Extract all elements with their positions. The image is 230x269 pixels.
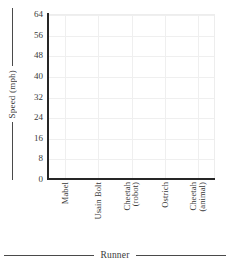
x-axis-category-label-line: Mabel xyxy=(60,182,69,204)
x-axis-title-rule-right xyxy=(136,255,226,256)
y-axis-title-rule-bottom xyxy=(12,122,13,180)
x-axis-category-label-line: Ostrich xyxy=(160,182,169,208)
x-axis-category-label-inner: Cheetah(animal) xyxy=(189,182,207,242)
y-axis-tick-labels: 0816243240485664 xyxy=(22,0,46,269)
x-axis-category-label-inner: Cheetah(robot) xyxy=(123,182,141,242)
y-axis-tick-label: 24 xyxy=(34,113,43,122)
x-axis-category-label-inner: Ostrich xyxy=(160,182,169,242)
gridline-vertical xyxy=(165,15,166,179)
x-axis-category-label-line: (animal) xyxy=(198,182,207,212)
y-axis-tick-label: 8 xyxy=(39,154,44,163)
x-axis-category-labels: MabelUsain BoltCheetah(robot)OstrichChee… xyxy=(48,182,215,244)
y-axis-tick-label: 0 xyxy=(39,175,44,184)
gridline-vertical xyxy=(65,15,66,179)
x-axis-title: Runner xyxy=(100,250,129,260)
y-axis-title: Speed (mph) xyxy=(7,66,17,122)
y-axis-title-rule-top xyxy=(12,8,13,66)
y-axis-tick-label: 64 xyxy=(34,10,43,19)
x-axis-category-label-line: Usain Bolt xyxy=(94,182,103,220)
y-axis-tick-label: 48 xyxy=(34,51,43,60)
y-axis-title-group: Speed (mph) xyxy=(2,8,22,180)
x-axis-category-label-inner: Mabel xyxy=(60,182,69,242)
x-axis-title-rule-left xyxy=(4,255,94,256)
y-axis-line xyxy=(47,13,49,180)
plot-area xyxy=(48,14,215,179)
x-axis-category-label-inner: Usain Bolt xyxy=(94,182,103,242)
x-axis-title-group: Runner xyxy=(4,248,226,262)
y-axis-tick-label: 56 xyxy=(34,30,43,39)
x-axis-line xyxy=(47,178,215,180)
gridline-vertical xyxy=(132,15,133,179)
gridline-vertical xyxy=(198,15,199,179)
y-axis-tick-label: 32 xyxy=(34,92,43,101)
x-axis-category-label-line: (robot) xyxy=(132,182,141,206)
y-axis-tick-label: 40 xyxy=(34,71,43,80)
gridline-vertical xyxy=(98,15,99,179)
bar-chart: Speed (mph) 0816243240485664 MabelUsain … xyxy=(0,0,230,269)
y-axis-tick-label: 16 xyxy=(34,133,43,142)
